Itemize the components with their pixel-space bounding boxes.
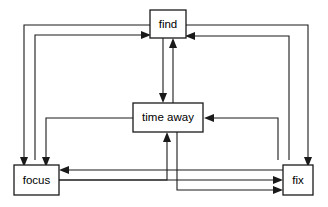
edge-time-away-to-focus [42, 118, 133, 167]
edge-fix-to-find [185, 32, 289, 160]
edge-find-to-focus [20, 25, 150, 167]
edge-path [177, 132, 275, 190]
nodes-layer: find time away focus fix [14, 10, 313, 195]
edge-path [24, 25, 150, 160]
edge-find-to-fix [186, 25, 312, 167]
edge-path [192, 36, 289, 160]
arrow-head-icon [159, 93, 167, 103]
edge-path [59, 139, 167, 180]
edge-fix-to-focus [59, 166, 283, 174]
arrow-head-icon [59, 166, 69, 174]
edge-time-away-to-find [169, 38, 177, 103]
edge-path [186, 25, 308, 160]
diagram-svg: find time away focus fix [0, 0, 328, 207]
edge-focus-to-time-away [59, 132, 171, 180]
node-time-away[interactable]: time away [133, 103, 203, 132]
edge-fix-to-time-away [204, 114, 278, 160]
arrow-head-icon [169, 38, 177, 48]
node-find[interactable]: find [150, 10, 186, 38]
edge-focus-to-find [35, 31, 151, 160]
arrow-head-icon [163, 132, 171, 142]
edge-time-away-to-fix [177, 132, 283, 194]
edge-path [46, 118, 133, 160]
node-fix[interactable]: fix [283, 165, 313, 195]
edge-path [35, 35, 144, 160]
node-focus[interactable]: focus [14, 165, 59, 195]
node-find-label: find [159, 18, 178, 30]
edge-path [212, 118, 278, 160]
node-focus-label: focus [23, 174, 51, 186]
node-time-away-label: time away [142, 111, 194, 123]
edge-focus-to-fix [59, 176, 283, 184]
arrow-head-icon [273, 186, 283, 194]
node-fix-label: fix [292, 174, 304, 186]
arrow-head-icon [273, 176, 283, 184]
edge-find-to-time-away [159, 38, 167, 103]
arrow-head-icon [204, 114, 214, 122]
flow-diagram-canvas: find time away focus fix [0, 0, 328, 207]
